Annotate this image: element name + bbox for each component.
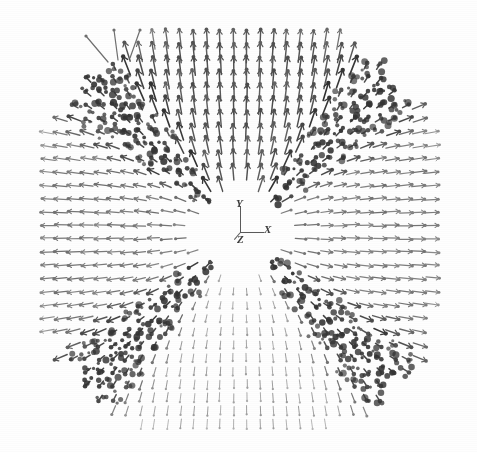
vector-field-figure: Y X Z bbox=[0, 0, 477, 452]
vector-field-canvas bbox=[0, 0, 477, 452]
